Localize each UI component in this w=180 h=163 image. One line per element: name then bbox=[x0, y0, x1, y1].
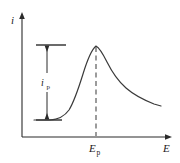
peak-potential-subscript: p bbox=[97, 148, 101, 157]
voltammogram-figure: i E i p E p bbox=[0, 0, 180, 163]
y-axis-group bbox=[19, 12, 25, 137]
peak-potential-label: E bbox=[88, 142, 96, 154]
x-axis-label: E bbox=[162, 142, 170, 154]
y-axis-label: i bbox=[11, 14, 14, 26]
figure-canvas: i E i p E p bbox=[0, 0, 180, 163]
y-axis-arrowhead bbox=[19, 12, 25, 19]
peak-current-label-group: i p bbox=[41, 77, 51, 91]
x-axis-group bbox=[22, 134, 172, 140]
peak-current-label: i bbox=[41, 77, 44, 88]
peak-current-arrowhead-up bbox=[45, 46, 50, 53]
peak-current-arrowhead-down bbox=[45, 113, 50, 120]
peak-current-subscript: p bbox=[47, 83, 51, 91]
voltammetric-peak-curve bbox=[34, 46, 161, 120]
x-axis-arrowhead bbox=[165, 134, 172, 140]
peak-potential-label-group: E p bbox=[88, 142, 101, 157]
